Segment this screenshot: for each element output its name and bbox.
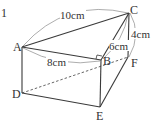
right-angle-marker bbox=[96, 55, 102, 59]
vertex-label-d: D bbox=[12, 87, 21, 101]
vertex-label-f: F bbox=[131, 56, 138, 70]
edge-de bbox=[22, 93, 100, 107]
measurement-ab: 8cm bbox=[47, 56, 66, 68]
problem-number: 1 bbox=[1, 6, 7, 20]
triangular-prism-diagram: 1 A B C D E F 10cm 8cm 6cm 4cm bbox=[0, 0, 152, 123]
vertex-label-b: B bbox=[103, 54, 111, 68]
vertex-label-a: A bbox=[13, 40, 22, 54]
measurement-cf: 4cm bbox=[131, 28, 150, 40]
edge-be bbox=[100, 60, 101, 107]
vertex-label-e: E bbox=[96, 109, 103, 123]
measurement-bc: 6cm bbox=[109, 40, 128, 52]
measurement-ac: 10cm bbox=[60, 9, 85, 21]
vertex-label-c: C bbox=[130, 3, 138, 17]
